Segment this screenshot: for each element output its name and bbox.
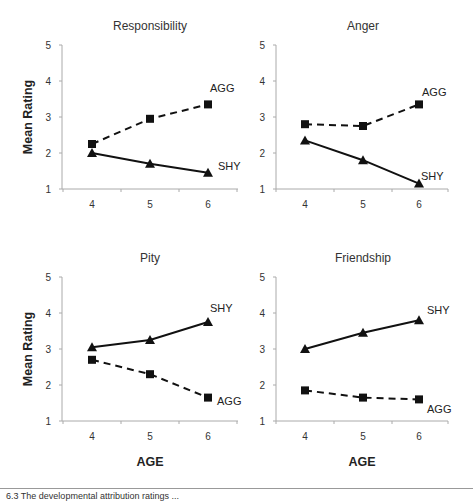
panel-friendship: Friendship12345456AGESHYAGG xyxy=(259,251,451,469)
y-tick-label: 3 xyxy=(259,112,265,123)
square-marker xyxy=(415,100,423,108)
x-tick-label: 5 xyxy=(147,199,153,210)
y-tick-label: 4 xyxy=(259,308,265,319)
caption-divider xyxy=(0,488,473,489)
x-tick-label: 4 xyxy=(89,199,95,210)
y-tick-label: 2 xyxy=(259,148,265,159)
square-marker xyxy=(359,394,367,402)
x-tick-label: 5 xyxy=(360,199,366,210)
figure-caption: 6.3 The developmental attribution rating… xyxy=(6,491,179,501)
x-tick-label: 5 xyxy=(360,431,366,442)
y-tick-label: 2 xyxy=(45,148,51,159)
square-marker xyxy=(88,140,96,148)
series-line-agg xyxy=(92,104,208,144)
y-tick-label: 2 xyxy=(259,380,265,391)
y-tick-label: 4 xyxy=(259,76,265,87)
panel-pity: Pity12345456Mean RatingAGESHYAGG xyxy=(21,251,241,469)
square-marker xyxy=(204,394,212,402)
triangle-marker xyxy=(300,135,310,144)
y-tick-label: 1 xyxy=(45,416,51,427)
y-axis-title: Mean Rating xyxy=(21,80,35,154)
square-marker xyxy=(301,386,309,394)
series-label-shy: SHY xyxy=(210,302,233,314)
panel-anger: Anger12345456AGGSHY xyxy=(259,19,448,210)
square-marker xyxy=(146,115,154,123)
panel-title: Responsibility xyxy=(113,19,187,33)
series-label-shy: SHY xyxy=(421,170,444,182)
x-tick-label: 6 xyxy=(205,431,211,442)
y-tick-label: 3 xyxy=(259,344,265,355)
y-tick-label: 3 xyxy=(45,344,51,355)
x-tick-label: 4 xyxy=(302,199,308,210)
x-tick-label: 6 xyxy=(205,199,211,210)
x-tick-label: 5 xyxy=(147,431,153,442)
x-axis-title: AGE xyxy=(348,455,375,469)
square-marker xyxy=(359,122,367,130)
x-tick-label: 4 xyxy=(302,431,308,442)
series-label-agg: AGG xyxy=(427,403,451,415)
series-label-agg: AGG xyxy=(422,86,446,98)
triangle-marker xyxy=(87,148,97,157)
y-tick-label: 2 xyxy=(45,380,51,391)
y-tick-label: 5 xyxy=(259,272,265,283)
panel-title: Anger xyxy=(347,19,379,33)
y-tick-label: 4 xyxy=(45,308,51,319)
series-label-agg: AGG xyxy=(217,395,241,407)
square-marker xyxy=(88,356,96,364)
y-tick-label: 1 xyxy=(259,416,265,427)
series-line-agg xyxy=(92,360,208,398)
series-label-shy: SHY xyxy=(427,304,450,316)
square-marker xyxy=(146,370,154,378)
x-axis-title: AGE xyxy=(136,455,163,469)
x-tick-label: 6 xyxy=(416,199,422,210)
y-tick-label: 4 xyxy=(45,76,51,87)
square-marker xyxy=(204,100,212,108)
y-tick-label: 5 xyxy=(45,272,51,283)
y-axis-title: Mean Rating xyxy=(21,312,35,386)
panel-title: Friendship xyxy=(335,251,391,265)
y-tick-label: 3 xyxy=(45,112,51,123)
x-tick-label: 4 xyxy=(89,431,95,442)
panel-title: Pity xyxy=(140,251,160,265)
square-marker xyxy=(415,395,423,403)
series-label-shy: SHY xyxy=(218,160,241,172)
x-tick-label: 6 xyxy=(416,431,422,442)
y-tick-label: 5 xyxy=(259,40,265,51)
square-marker xyxy=(301,120,309,128)
y-tick-label: 1 xyxy=(45,184,51,195)
triangle-marker xyxy=(203,317,213,326)
panel-responsibility: Responsibility12345456Mean RatingAGGSHY xyxy=(21,19,241,210)
y-tick-label: 5 xyxy=(45,40,51,51)
triangle-marker xyxy=(414,315,424,324)
series-label-agg: AGG xyxy=(210,82,234,94)
y-tick-label: 1 xyxy=(259,184,265,195)
